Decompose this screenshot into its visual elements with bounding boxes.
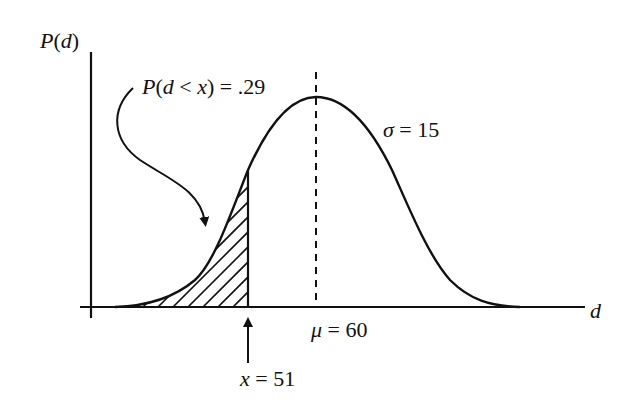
y-axis-label: P(d) [39, 28, 79, 53]
bell-curve [115, 97, 520, 307]
normal-distribution-diagram: P(d) d P(d < x) = .29 σ = 15 μ = 60 x = … [0, 0, 639, 409]
sigma-label: σ = 15 [383, 117, 439, 142]
mu-label: μ = 60 [310, 317, 367, 342]
x-marker-label: x = 51 [239, 366, 295, 391]
probability-annotation: P(d < x) = .29 [141, 74, 265, 99]
shaded-area [70, 170, 400, 320]
x-axis-label: d [590, 298, 602, 323]
annotation-arrow [117, 88, 205, 222]
